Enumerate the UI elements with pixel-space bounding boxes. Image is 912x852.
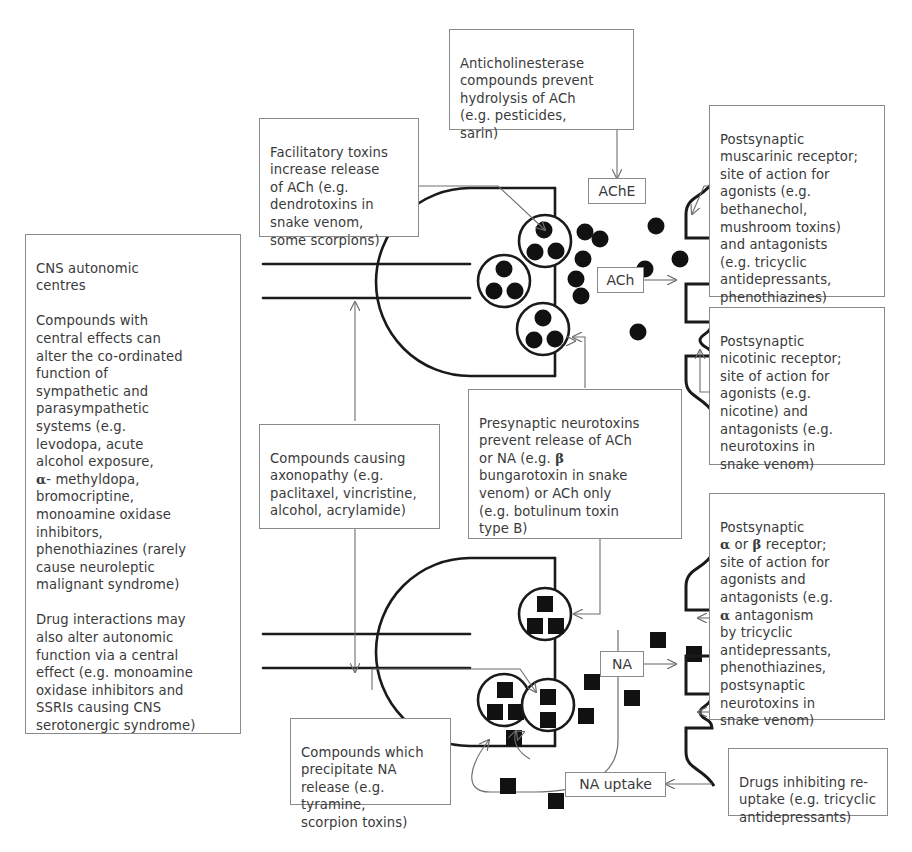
anticholinesterase-box: Anticholinesterasecompounds preventhydro… [449, 29, 634, 130]
wire-presynaptic-upper [573, 337, 585, 388]
ach-vesicles [478, 215, 571, 355]
anticholinesterase-text: Anticholinesterasecompounds preventhydro… [460, 56, 594, 141]
na-vesicles [478, 588, 574, 731]
presynaptic-neurotoxins-box: Presynaptic neurotoxinsprevent release o… [468, 389, 682, 539]
reuptake-inhibitors-box: Drugs inhibiting re-uptake (e.g. tricycl… [728, 748, 888, 816]
ach-tag: ACh [597, 267, 644, 293]
wire-presynaptic-lower [574, 538, 600, 614]
cns-autonomic-centres-box: CNS autonomiccentresCompounds withcentra… [25, 234, 241, 734]
ach-label: ACh [607, 273, 635, 288]
na-uptake-tag: NA uptake [565, 772, 666, 797]
na-uptake-label: NA uptake [579, 777, 652, 792]
vesicle [519, 588, 571, 640]
vesicle [517, 303, 569, 355]
diagram-canvas: CNS autonomiccentresCompounds withcentra… [0, 0, 912, 852]
axonopathy-box: Compounds causingaxonopathy (e.g.paclita… [259, 424, 440, 529]
nicotinic-receptor-box: Postsynapticnicotinic receptor;site of a… [709, 307, 885, 465]
vesicle [478, 255, 530, 307]
presynaptic-neurotoxins-text: Presynaptic neurotoxinsprevent release o… [479, 416, 640, 537]
muscarinic-receptor-text: Postsynapticmuscarinic receptor;site of … [720, 132, 858, 305]
alpha-beta-receptor-text: Postsynapticα or β receptor;site of acti… [720, 520, 833, 729]
precipitate-na-release-box: Compounds whichprecipitate NArelease (e.… [290, 718, 451, 805]
ache-tag: AChE [588, 178, 646, 204]
muscarinic-receptor-box: Postsynapticmuscarinic receptor;site of … [709, 105, 885, 297]
axonopathy-text: Compounds causingaxonopathy (e.g.paclita… [270, 451, 417, 519]
vesicle [519, 215, 571, 267]
na-label: NA [612, 657, 632, 672]
precipitate-na-release-text: Compounds whichprecipitate NArelease (e.… [301, 745, 424, 830]
ache-label: AChE [599, 184, 636, 199]
facilitatory-toxins-text: Facilitatory toxinsincrease releaseof AC… [270, 145, 388, 248]
na-tag: NA [600, 651, 644, 677]
facilitatory-toxins-box: Facilitatory toxinsincrease releaseof AC… [259, 118, 419, 237]
alpha-beta-receptor-box: Postsynapticα or β receptor;site of acti… [709, 493, 885, 720]
nicotinic-receptor-text: Postsynapticnicotinic receptor;site of a… [720, 334, 842, 472]
vesicle [522, 679, 574, 731]
cns-autonomic-centres-text: CNS autonomiccentresCompounds withcentra… [36, 261, 195, 733]
